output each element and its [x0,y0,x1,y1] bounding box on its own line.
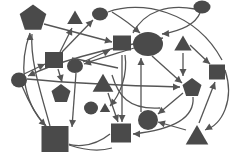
arrowhead-icon [119,115,126,122]
arrowhead-icon [209,81,218,90]
arrowhead-icon [157,119,166,128]
edge-n1-n8 [44,24,112,42]
node-triangle-n20 [186,125,209,144]
edge-n5-n16 [110,55,126,106]
node-triangle-n2 [67,10,83,24]
node-pentagon-n12 [52,84,71,102]
arrowhead-icon [138,58,145,65]
arrowhead-icon [102,47,111,56]
node-circle-n11 [11,73,27,88]
arrowhead-icon [133,131,140,138]
node-circle-n4 [194,1,211,14]
node-square-n5 [113,36,131,51]
arrowhead-icon [173,84,180,91]
edge-n13-n18 [69,134,110,146]
arrowhead-icon [104,37,113,46]
node-square-n18 [42,126,69,152]
node-circle-n6 [133,32,163,56]
node-square-n8 [45,52,63,68]
nodes-layer [11,1,225,153]
node-square-n10 [209,65,225,80]
node-circle-n15 [84,102,98,115]
arrowhead-icon [69,120,77,128]
arrowhead-icon [180,69,187,76]
node-square-n19 [111,124,131,143]
arrowhead-icon [66,27,75,36]
edge-n13-n19b [112,75,160,108]
arrowhead-icon [162,30,170,38]
node-triangle-n16 [100,103,110,112]
network-diagram [0,0,235,158]
node-triangle-n7 [174,36,191,51]
node-triangle-n13 [93,74,114,92]
node-circle-n17 [138,110,158,130]
node-pentagon-n1 [20,4,47,29]
node-circle-n9 [67,59,83,73]
node-pentagon-n14 [183,78,202,96]
node-circle-n3 [92,8,108,21]
arrowhead-icon [203,123,213,133]
edge-n9-n19 [72,73,76,127]
